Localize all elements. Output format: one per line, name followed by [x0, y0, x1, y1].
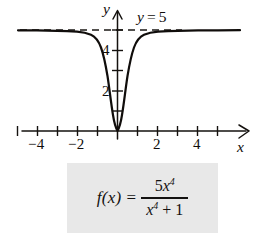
formula-box: f(x) = 5x4 x4+1	[67, 163, 218, 233]
function-graph-figure: y x y=5 −4 −2 2 4 2 4 f(x) = 5x4 x4+1	[0, 0, 258, 242]
denominator-constant: 1	[175, 201, 183, 218]
y-axis-label: y	[103, 1, 110, 17]
formula-denominator: x4+1	[141, 199, 188, 218]
formula-expression: f(x) = 5x4 x4+1	[67, 163, 218, 233]
asymptote-label-value: 5	[159, 8, 167, 25]
numerator-coefficient: 5	[155, 177, 163, 194]
formula-function-name: f(x)	[97, 188, 122, 208]
denominator-plus-sign: +	[158, 201, 175, 218]
x-tick-label-minus4: −4	[28, 137, 44, 152]
x-axis-label: x	[237, 139, 244, 155]
asymptote-label: y=5	[137, 9, 166, 25]
x-tick-label-minus2: −2	[68, 137, 84, 152]
function-curve	[18, 30, 240, 131]
x-tick-label-2: 2	[153, 137, 161, 152]
y-tick-label-2: 2	[102, 84, 110, 99]
formula-numerator: 5x4	[150, 178, 180, 197]
numerator-variable: x	[163, 177, 170, 194]
y-tick-label-4: 4	[102, 43, 110, 58]
formula-fraction: 5x4 x4+1	[141, 178, 188, 217]
x-tick-label-4: 4	[193, 137, 201, 152]
numerator-exponent: 4	[170, 176, 175, 187]
asymptote-label-variable: y	[137, 8, 144, 25]
formula-equals-sign: =	[126, 188, 138, 208]
asymptote-label-equals: =	[144, 8, 159, 25]
